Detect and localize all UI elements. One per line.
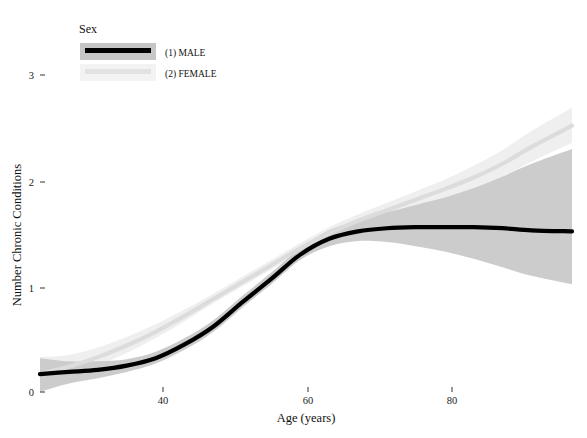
chart-figure: 3 2 1 0 40 60: [0, 0, 587, 438]
chart-svg: 3 2 1 0 40 60: [0, 0, 587, 438]
legend-title: Sex: [79, 22, 97, 36]
legend-line-swatch-male: [85, 48, 151, 53]
y-tick-label-2: 2: [29, 177, 34, 188]
y-tick-label-3: 3: [29, 70, 34, 81]
legend-label-male: (1) MALE: [165, 48, 206, 59]
y-tick-label-1: 1: [29, 283, 34, 294]
legend-label-female: (2) FEMALE: [165, 69, 217, 80]
y-tick-label-0: 0: [29, 387, 34, 398]
x-tick-label-40: 40: [158, 395, 169, 406]
y-axis-title: Number Chronic Conditions: [10, 164, 24, 306]
x-tick-label-60: 60: [303, 395, 314, 406]
x-tick-label-80: 80: [447, 395, 458, 406]
x-axis-title: Age (years): [277, 411, 336, 425]
legend-line-swatch-female: [85, 69, 151, 74]
